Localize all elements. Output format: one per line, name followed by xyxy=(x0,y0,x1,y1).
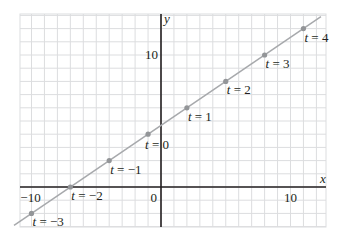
x-tick-label: 10 xyxy=(284,190,297,205)
point-label: t = −2 xyxy=(71,188,102,203)
data-point xyxy=(145,132,150,137)
x-tick-label: 0 xyxy=(151,190,158,205)
x-tick-label: −10 xyxy=(20,190,40,205)
y-axis-label: y xyxy=(162,11,170,26)
x-axis-label: x xyxy=(319,171,326,186)
parametric-line-chart: xy−1001010t = −3t = −2t = −1t = 0t = 1t … xyxy=(0,0,344,242)
point-label: t = 3 xyxy=(266,56,290,71)
y-tick-label: 10 xyxy=(145,47,158,62)
point-label: t = 0 xyxy=(145,137,169,152)
point-label: t = 4 xyxy=(304,30,328,45)
point-label: t = −3 xyxy=(33,214,64,229)
grid xyxy=(20,14,326,227)
point-label: t = 2 xyxy=(227,82,251,97)
point-label: t = 1 xyxy=(188,109,212,124)
labels: xy−1001010t = −3t = −2t = −1t = 0t = 1t … xyxy=(20,11,329,229)
point-label: t = −1 xyxy=(110,162,141,177)
